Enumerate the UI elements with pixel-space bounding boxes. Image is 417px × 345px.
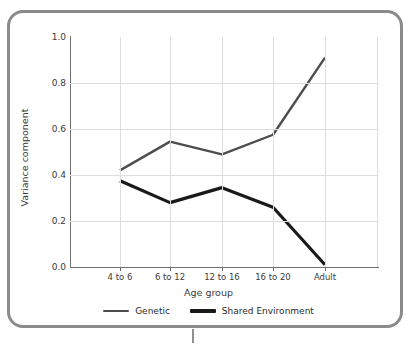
x-tick-mark (170, 267, 171, 271)
legend-label-shared-environment: Shared Environment (222, 306, 314, 316)
legend-item-genetic[interactable]: Genetic (103, 306, 170, 316)
x-tick-label: 12 to 16 (204, 272, 240, 282)
x-tick-mark (325, 267, 326, 271)
y-axis-tick-labels: 1.0 0.8 0.6 0.4 0.2 0.0 (36, 37, 66, 267)
x-axis-line (70, 267, 379, 268)
gridline-horizontal (70, 83, 378, 84)
legend-swatch-genetic (103, 310, 129, 312)
chart-screenshot: 1.0 0.8 0.6 0.4 0.2 0.0 (0, 0, 417, 345)
x-axis-tick-labels: 4 to 6 6 to 12 12 to 16 16 to 20 Adult (70, 272, 378, 286)
gridline-vertical (222, 37, 223, 267)
y-axis-title: Variance component (19, 88, 30, 228)
x-tick-label: Adult (314, 272, 336, 282)
x-tick-mark (273, 267, 274, 271)
gridline-horizontal (70, 129, 378, 130)
chart-legend: Genetic Shared Environment (0, 306, 417, 316)
gridline-vertical (170, 37, 171, 267)
legend-swatch-shared-environment (190, 309, 216, 312)
x-tick-label: 6 to 12 (155, 272, 185, 282)
y-tick-label: 1.0 (52, 32, 66, 42)
legend-label-genetic: Genetic (135, 306, 170, 316)
y-tick-label: 0.8 (52, 78, 66, 88)
x-tick-mark (120, 267, 121, 271)
series-lines (70, 37, 378, 267)
gridline-vertical (377, 37, 378, 267)
x-axis-title: Age group (0, 287, 417, 298)
gridline-horizontal (70, 175, 378, 176)
y-tick-label: 0.2 (52, 216, 66, 226)
gridline-vertical (120, 37, 121, 267)
legend-item-shared-environment[interactable]: Shared Environment (190, 306, 314, 316)
line-chart-figure: 1.0 0.8 0.6 0.4 0.2 0.0 (0, 0, 417, 345)
x-tick-label: 16 to 20 (255, 272, 291, 282)
x-tick-label: 4 to 6 (108, 272, 133, 282)
gridline-vertical (325, 37, 326, 267)
x-tick-mark (222, 267, 223, 271)
y-tick-label: 0.6 (52, 124, 66, 134)
plot-area (70, 37, 378, 267)
gridline-horizontal (70, 221, 378, 222)
gridline-vertical (273, 37, 274, 267)
y-tick-label: 0.0 (52, 262, 66, 272)
y-tick-label: 0.4 (52, 170, 66, 180)
